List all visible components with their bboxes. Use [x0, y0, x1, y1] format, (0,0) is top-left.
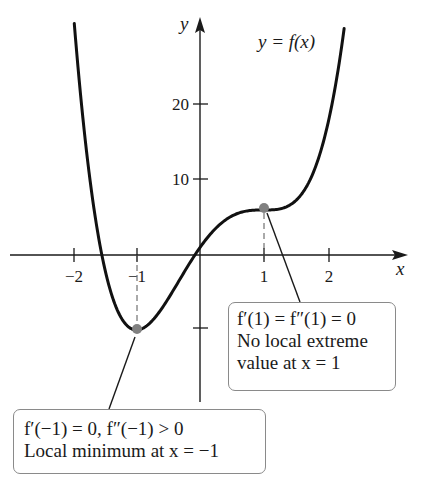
- callout-line: value at x = 1: [237, 352, 395, 374]
- y-tick-label: 10: [172, 170, 189, 189]
- leader-line-min: [109, 337, 135, 409]
- callout-inflection: f′(1) = f″(1) = 0 No local extreme value…: [228, 302, 396, 391]
- function-curve: [74, 23, 344, 330]
- x-tick-label: −2: [65, 267, 83, 286]
- leader-line-inflection: [267, 213, 300, 302]
- x-tick-label: 1: [260, 267, 269, 286]
- y-axis-label: y: [178, 13, 189, 34]
- callout-line: f′(−1) = 0, f″(−1) > 0: [24, 418, 265, 440]
- callout-line: No local extreme: [237, 330, 395, 352]
- x-tick-label: 2: [325, 267, 334, 286]
- y-tick-label: 20: [172, 95, 189, 114]
- inflection-point: [259, 203, 269, 213]
- x-axis-label: x: [395, 258, 405, 279]
- curve-label: y = f(x): [256, 31, 315, 53]
- x-axis: [10, 250, 408, 260]
- callout-line: f′(1) = f″(1) = 0: [237, 308, 395, 330]
- callout-line: Local minimum at x = −1: [24, 440, 265, 462]
- local-minimum-point: [132, 324, 142, 334]
- y-axis: [195, 17, 205, 402]
- callout-minimum: f′(−1) = 0, f″(−1) > 0 Local minimum at …: [13, 409, 266, 474]
